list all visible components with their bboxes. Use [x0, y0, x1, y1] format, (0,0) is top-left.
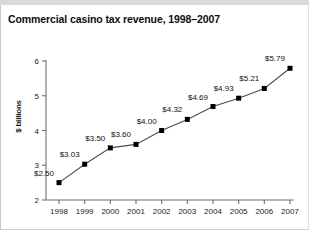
- data-point-marker: [82, 162, 87, 167]
- y-axis-tick-label: 2: [35, 196, 40, 205]
- x-axis-tick-label: 2006: [255, 207, 273, 216]
- data-point-label: $4.69: [188, 93, 209, 102]
- x-axis-tick-label: 2001: [127, 207, 145, 216]
- data-point-label: $3.50: [85, 134, 106, 143]
- data-point-marker: [159, 128, 164, 133]
- data-point-label: $5.79: [265, 54, 286, 63]
- data-point-marker: [185, 117, 190, 122]
- data-point-label: $4.93: [214, 84, 235, 93]
- data-point-label: $4.00: [137, 117, 158, 126]
- data-point-marker: [108, 145, 113, 150]
- data-point-marker: [262, 86, 267, 91]
- y-axis-tick-label: 4: [35, 127, 40, 136]
- data-point-label: $4.32: [162, 105, 183, 114]
- chart-figure: Commercial casino tax revenue, 1998–2007…: [0, 0, 309, 230]
- x-axis-tick-label: 2004: [204, 207, 222, 216]
- data-point-label: $2.50: [34, 169, 55, 178]
- x-axis-tick-label: 2003: [178, 207, 196, 216]
- data-point-marker: [288, 66, 293, 71]
- data-point-label: $3.60: [111, 130, 132, 139]
- x-axis: 1998199920002001200220032004200520062007: [46, 200, 299, 216]
- data-series-line: [59, 68, 290, 182]
- data-point-marker: [211, 104, 216, 109]
- data-point-marker: [57, 180, 62, 185]
- x-axis-tick-label: 2000: [101, 207, 119, 216]
- data-point-marker: [236, 96, 241, 101]
- x-axis-tick-label: 2002: [153, 207, 171, 216]
- x-axis-tick-label: 2007: [281, 207, 299, 216]
- x-axis-tick-label: 1999: [76, 207, 94, 216]
- y-axis: 23456: [35, 57, 46, 205]
- plot-area: 23456 1998199920002001200220032004200520…: [0, 0, 309, 230]
- data-point-marker: [134, 142, 139, 147]
- data-point-label: $3.03: [60, 150, 81, 159]
- x-axis-tick-label: 1998: [50, 207, 68, 216]
- x-axis-tick-label: 2005: [230, 207, 248, 216]
- data-point-labels: $2.50$3.03$3.50$3.60$4.00$4.32$4.69$4.93…: [34, 54, 286, 177]
- y-axis-tick-label: 5: [35, 92, 40, 101]
- data-point-label: $5.21: [239, 74, 260, 83]
- y-axis-tick-label: 6: [35, 57, 40, 66]
